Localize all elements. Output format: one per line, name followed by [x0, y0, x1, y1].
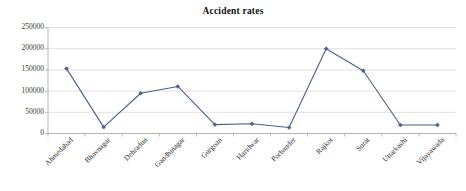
series-markers-accident-rates: [65, 47, 440, 130]
series-line-accident-rates: [67, 49, 438, 128]
data-point-marker: [287, 126, 291, 130]
data-point-marker: [250, 122, 254, 126]
line-chart-plot: [0, 0, 466, 191]
chart-container: Accident rates 0500001000001500002000002…: [0, 0, 466, 191]
data-point-marker: [436, 123, 440, 127]
